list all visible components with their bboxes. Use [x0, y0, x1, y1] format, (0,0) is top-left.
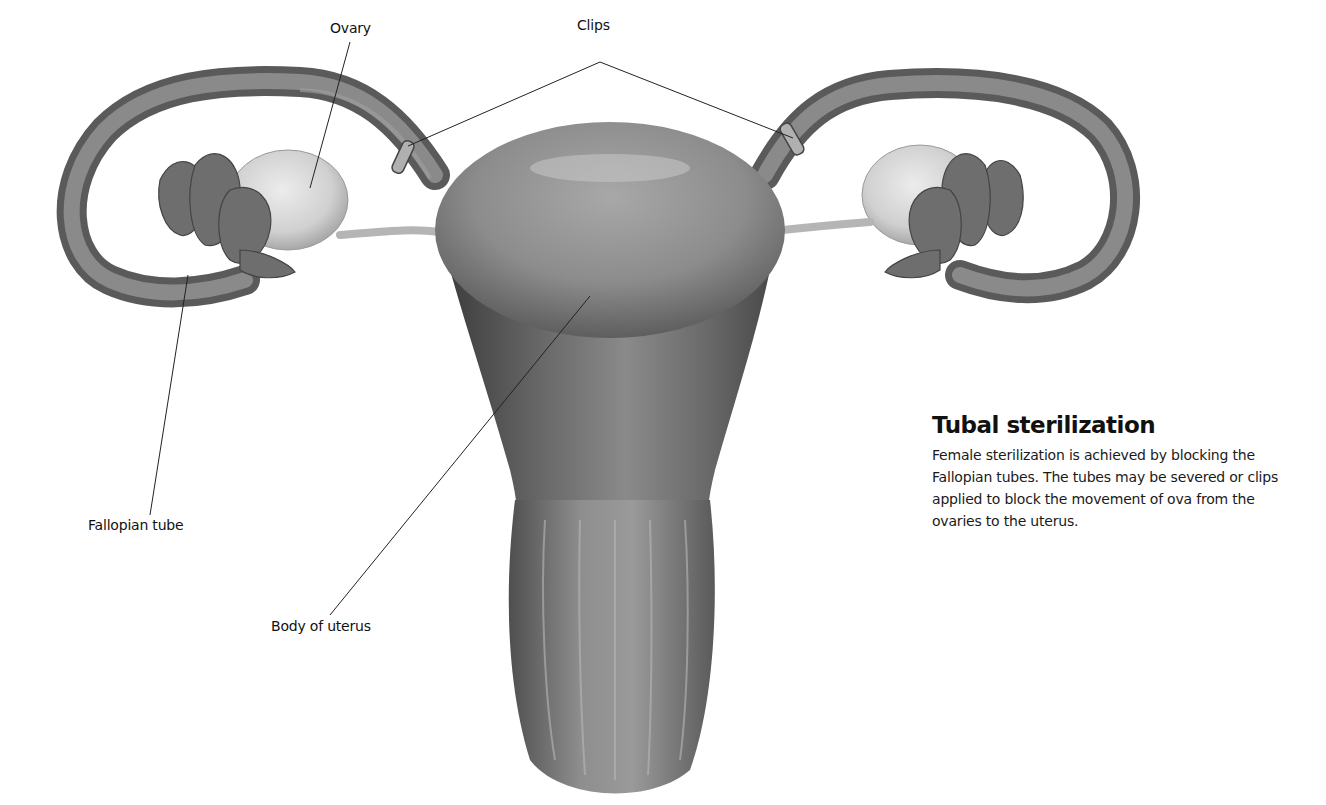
uterus-illustration: [0, 0, 1326, 805]
sidebar-body: Female sterilization is achieved by bloc…: [932, 444, 1292, 532]
sidebar-title: Tubal sterilization: [932, 412, 1312, 438]
sidebar-panel: Tubal sterilization Female sterilization…: [932, 412, 1312, 532]
label-body-of-uterus: Body of uterus: [271, 618, 371, 634]
cervix: [509, 500, 715, 793]
label-ovary: Ovary: [330, 20, 371, 36]
label-fallopian-tube: Fallopian tube: [88, 517, 183, 533]
label-clips: Clips: [577, 17, 610, 33]
